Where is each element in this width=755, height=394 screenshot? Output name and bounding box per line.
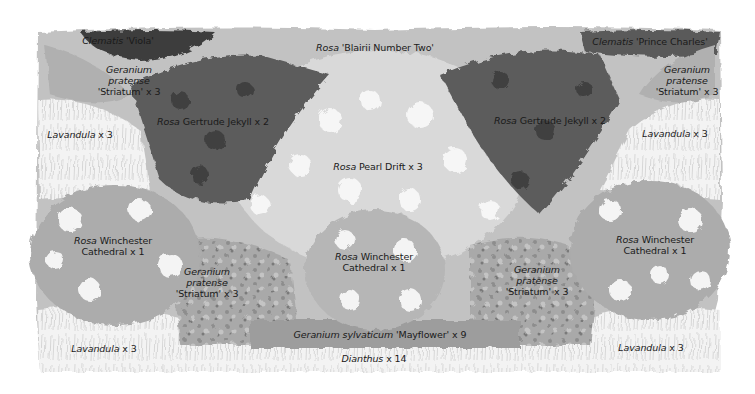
label-geranium-striatum-bottom-left: Geranium pratense 'Striatum' x 3 (176, 266, 239, 299)
label-rosa-winchester-left: Rosa Winchester Cathedral x 1 (74, 235, 152, 257)
label-genus: Rosa (494, 115, 517, 126)
label-cultivar: 'Striatum' x 3 (98, 86, 161, 97)
label-cultivar: 'Striatum' x 3 (656, 86, 719, 97)
label-quantity: Cathedral x 1 (616, 245, 694, 256)
label-species: pratense (506, 275, 569, 286)
label-lavandula-bottom-right: Lavandula x 3 (618, 342, 684, 353)
label-rosa-pearl-drift: Rosa Pearl Drift x 3 (333, 161, 422, 172)
label-quantity: x 14 (383, 353, 406, 364)
label-genus: Rosa (333, 161, 356, 172)
label-quantity: Cathedral x 1 (335, 262, 413, 273)
label-geranium-striatum-top-left: Geranium pratense 'Striatum' x 3 (98, 64, 161, 97)
label-cultivar: 'Blairii Number Two' (339, 42, 434, 53)
label-genus: Clematis (592, 36, 633, 47)
label-cultivar: 'Viola' (123, 35, 154, 46)
label-clematis-prince-charles: Clematis 'Prince Charles' (592, 36, 707, 47)
label-species: pratense (98, 75, 161, 86)
label-rosa-blairii: Rosa 'Blairii Number Two' (316, 42, 434, 53)
label-genus: Rosa (74, 235, 97, 246)
label-cultivar: Winchester (97, 235, 152, 246)
label-lavandula-bottom-left: Lavandula x 3 (71, 343, 137, 354)
label-quantity: x 3 (666, 342, 683, 353)
label-clematis-viola: Clematis 'Viola' (82, 35, 153, 46)
label-rosa-gertrude-right: Rosa Gertrude Jekyll x 2 (494, 115, 606, 126)
label-genus: Geranium (98, 64, 161, 75)
label-genus: Geranium (176, 266, 239, 277)
label-genus: Geranium sylvaticum (294, 329, 394, 340)
label-lavandula-top-right: Lavandula x 3 (642, 128, 708, 139)
label-dianthus: Dianthus x 14 (342, 353, 407, 364)
label-lavandula-top-left: Lavandula x 3 (47, 129, 113, 140)
label-genus: Dianthus (342, 353, 384, 364)
label-genus: Lavandula (71, 343, 119, 354)
label-quantity: Cathedral x 1 (74, 246, 152, 257)
label-genus: Rosa (616, 234, 639, 245)
label-rosa-winchester-right: Rosa Winchester Cathedral x 1 (616, 234, 694, 256)
label-cultivar: Pearl Drift x 3 (356, 161, 423, 172)
label-rosa-winchester-center: Rosa Winchester Cathedral x 1 (335, 251, 413, 273)
label-species: pratense (176, 277, 239, 288)
label-geranium-striatum-top-right: Geranium pratense 'Striatum' x 3 (656, 64, 719, 97)
label-genus: Geranium (656, 64, 719, 75)
label-cultivar: Gertrude Jekyll x 2 (517, 115, 606, 126)
label-cultivar: Winchester (358, 251, 413, 262)
label-species: pratense (656, 75, 719, 86)
label-cultivar: 'Mayflower' x 9 (393, 329, 466, 340)
label-genus: Rosa (157, 116, 180, 127)
label-rosa-gertrude-left: Rosa Gertrude Jekyll x 2 (157, 116, 269, 127)
label-genus: Clematis (82, 35, 123, 46)
label-cultivar: 'Striatum' x 3 (176, 288, 239, 299)
label-genus: Rosa (316, 42, 339, 53)
label-geranium-striatum-bottom-right: Geranium pratense 'Striatum' x 3 (506, 264, 569, 297)
label-quantity: x 3 (119, 343, 136, 354)
label-geranium-mayflower: Geranium sylvaticum 'Mayflower' x 9 (294, 329, 467, 340)
label-genus: Rosa (335, 251, 358, 262)
label-genus: Lavandula (642, 128, 690, 139)
label-cultivar: 'Striatum' x 3 (506, 286, 569, 297)
label-cultivar: Winchester (639, 234, 694, 245)
label-cultivar: Gertrude Jekyll x 2 (180, 116, 269, 127)
label-genus: Lavandula (47, 129, 95, 140)
label-genus: Lavandula (618, 342, 666, 353)
label-cultivar: 'Prince Charles' (633, 36, 708, 47)
label-genus: Geranium (506, 264, 569, 275)
label-quantity: x 3 (95, 129, 112, 140)
label-quantity: x 3 (690, 128, 707, 139)
